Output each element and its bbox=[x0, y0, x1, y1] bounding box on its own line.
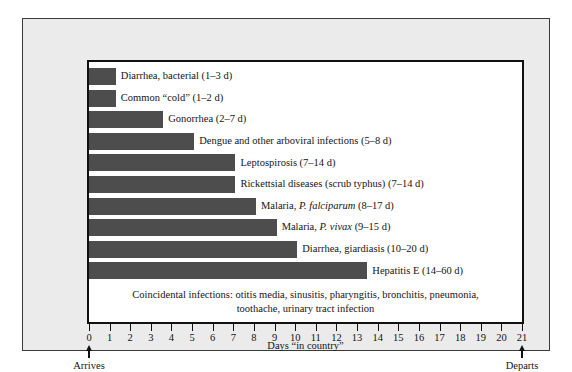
x-axis-tick bbox=[233, 324, 234, 331]
bar bbox=[89, 154, 235, 171]
plot-frame: Coincidental infections: otitis media, s… bbox=[87, 60, 524, 324]
bar-label-suffix: (9–15 d) bbox=[352, 221, 391, 232]
bar-label: Malaria, P. falciparum (8–17 d) bbox=[261, 201, 394, 212]
arrow-stem bbox=[88, 351, 90, 358]
coincidental-line-2: toothache, urinary tract infection bbox=[95, 302, 516, 316]
bar bbox=[89, 262, 367, 279]
coincidental-infections-note: Coincidental infections: otitis media, s… bbox=[95, 288, 516, 316]
x-axis-tick bbox=[481, 324, 482, 331]
x-axis-tick bbox=[419, 324, 420, 331]
x-axis-tick bbox=[192, 324, 193, 331]
bar-row: Hepatitis E (14–60 d) bbox=[89, 260, 463, 281]
bar-label-suffix: (8–17 d) bbox=[355, 200, 394, 211]
bar bbox=[89, 176, 235, 193]
x-axis-tick bbox=[130, 324, 131, 331]
bar-row: Leptospirosis (7–14 d) bbox=[89, 152, 335, 173]
bar-label: Gonorrhea (2–7 d) bbox=[168, 114, 246, 125]
bar-row: Diarrhea, giardiasis (10–20 d) bbox=[89, 239, 428, 260]
x-axis-tick bbox=[275, 324, 276, 331]
bar-label: Dengue and other arboviral infections (5… bbox=[199, 136, 391, 147]
x-axis-tick bbox=[151, 324, 152, 331]
x-axis-tick bbox=[213, 324, 214, 331]
bar-row: Malaria, P. vivax (9–15 d) bbox=[89, 217, 391, 238]
bar-label-species: P. vivax bbox=[320, 221, 352, 232]
bar bbox=[89, 133, 194, 150]
plot-area: Coincidental infections: otitis media, s… bbox=[89, 62, 522, 322]
bar-row: Common “cold” (1–2 d) bbox=[89, 88, 223, 109]
x-axis-tick bbox=[110, 324, 111, 331]
bar-label-species: P. falciparum bbox=[299, 200, 355, 211]
x-axis-tick bbox=[89, 324, 90, 331]
x-axis-title: Days “in country” bbox=[87, 340, 524, 351]
bar bbox=[89, 68, 116, 85]
x-axis-tick bbox=[254, 324, 255, 331]
coincidental-line-1: Coincidental infections: otitis media, s… bbox=[95, 288, 516, 302]
bar-row: Gonorrhea (2–7 d) bbox=[89, 109, 246, 130]
x-axis-tick bbox=[295, 324, 296, 331]
departs-label: Departs bbox=[502, 360, 542, 372]
arrives-label: Arrives bbox=[69, 360, 109, 372]
departs-marker: Departs bbox=[502, 345, 542, 372]
bar-label: Diarrhea, giardiasis (10–20 d) bbox=[302, 244, 428, 255]
x-axis-tick bbox=[440, 324, 441, 331]
arrives-marker: Arrives bbox=[69, 345, 109, 372]
bar bbox=[89, 90, 116, 107]
x-axis-tick bbox=[336, 324, 337, 331]
bar bbox=[89, 111, 163, 128]
bar bbox=[89, 198, 256, 215]
figure-canvas: Coincidental infections: otitis media, s… bbox=[0, 0, 572, 372]
x-axis-tick bbox=[171, 324, 172, 331]
x-axis: 0123456789101112131415161718192021 bbox=[87, 324, 524, 336]
bar-label: Malaria, P. vivax (9–15 d) bbox=[282, 222, 391, 233]
bar-label: Rickettsial diseases (scrub typhus) (7–1… bbox=[240, 179, 423, 190]
x-axis-tick bbox=[460, 324, 461, 331]
bar-label-prefix: Malaria, bbox=[282, 221, 320, 232]
bar-label: Common “cold” (1–2 d) bbox=[121, 93, 223, 104]
bar-row: Diarrhea, bacterial (1–3 d) bbox=[89, 66, 232, 87]
bar-label: Diarrhea, bacterial (1–3 d) bbox=[121, 71, 232, 82]
x-axis-tick bbox=[522, 324, 523, 331]
x-axis-tick bbox=[357, 324, 358, 331]
bar-label: Leptospirosis (7–14 d) bbox=[240, 158, 335, 169]
arrow-stem bbox=[521, 351, 523, 358]
bar bbox=[89, 241, 297, 258]
x-axis-tick bbox=[316, 324, 317, 331]
x-axis-tick bbox=[398, 324, 399, 331]
bar-label-prefix: Malaria, bbox=[261, 200, 299, 211]
x-axis-tick bbox=[501, 324, 502, 331]
bar-row: Rickettsial diseases (scrub typhus) (7–1… bbox=[89, 174, 424, 195]
figure-panel: Coincidental infections: otitis media, s… bbox=[22, 18, 550, 351]
x-axis-tick bbox=[378, 324, 379, 331]
bar-label: Hepatitis E (14–60 d) bbox=[372, 266, 463, 277]
bar-row: Dengue and other arboviral infections (5… bbox=[89, 131, 392, 152]
bar-row: Malaria, P. falciparum (8–17 d) bbox=[89, 196, 394, 217]
bar bbox=[89, 219, 277, 236]
